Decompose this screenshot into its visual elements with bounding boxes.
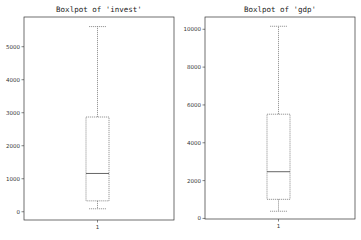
- iqr-box: [86, 117, 109, 201]
- chart-title: Boxlpot of 'invest': [56, 5, 142, 14]
- x-tick-label: 1: [96, 224, 100, 230]
- chart-canvas: Boxlpot of 'invest'010002000300040005000…: [0, 0, 361, 240]
- chart-title: Boxlpot of 'gdp': [244, 5, 316, 14]
- y-tick-label: 6000: [187, 102, 201, 108]
- plot-frame: [205, 17, 355, 219]
- subplot-2: Boxlpot of 'gdp'02000400060008000100001: [184, 5, 356, 229]
- y-tick-label: 4000: [187, 140, 201, 146]
- iqr-box: [267, 114, 290, 199]
- x-tick-label: 1: [277, 223, 281, 229]
- y-tick-label: 2000: [6, 143, 20, 149]
- y-tick-label: 0: [17, 209, 21, 215]
- y-tick-label: 3000: [6, 110, 20, 116]
- y-tick-label: 2000: [187, 178, 201, 184]
- y-tick-label: 5000: [6, 44, 20, 50]
- y-tick-label: 4000: [6, 77, 20, 83]
- subplot-1: Boxlpot of 'invest'010002000300040005000…: [6, 5, 174, 230]
- y-tick-label: 8000: [187, 64, 201, 70]
- y-tick-label: 10000: [184, 26, 202, 32]
- y-tick-label: 1000: [6, 176, 20, 182]
- y-tick-label: 0: [198, 215, 202, 221]
- plot-frame: [24, 17, 174, 220]
